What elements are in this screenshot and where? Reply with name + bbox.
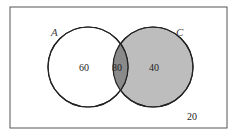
value-a-only: 60 xyxy=(79,62,89,73)
value-intersection: 80 xyxy=(112,62,122,73)
value-c-only: 40 xyxy=(149,62,159,73)
value-outside: 20 xyxy=(187,111,197,122)
label-a: A xyxy=(50,26,58,38)
label-c: C xyxy=(176,26,184,38)
venn-diagram: A C 60 80 40 20 xyxy=(0,0,230,135)
